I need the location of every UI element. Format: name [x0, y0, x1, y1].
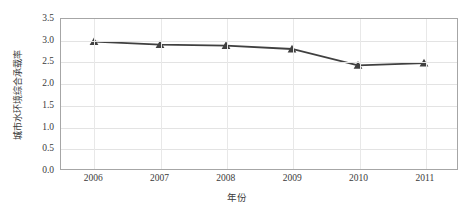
gridline-vertical	[293, 19, 294, 169]
x-axis-tick-label: 2011	[416, 172, 435, 185]
x-axis-tick-label: 2009	[283, 172, 302, 185]
y-axis-tick-label: 2.5	[42, 56, 54, 66]
x-axis-tick-label: 2008	[216, 172, 235, 185]
gridline-horizontal	[61, 128, 457, 129]
plot-area	[60, 18, 458, 170]
gridline-horizontal	[61, 106, 457, 107]
y-axis-tick-label: 2.0	[42, 78, 54, 88]
y-axis-tick-label: 3.5	[42, 13, 54, 23]
x-axis-tick-label: 2006	[84, 172, 103, 185]
gridline-horizontal	[61, 62, 457, 63]
x-axis-tick-label: 2010	[349, 172, 368, 185]
y-axis-tick-label: 0.5	[42, 143, 54, 153]
x-axis-tick-labels: 200620072008200920102011	[60, 172, 458, 188]
gridline-vertical	[161, 19, 162, 169]
gridline-horizontal	[61, 84, 457, 85]
y-axis-title-text: 城市水环境综合承载率	[11, 49, 24, 139]
gridline-horizontal	[61, 149, 457, 150]
x-axis-tick-label: 2007	[150, 172, 169, 185]
y-axis-tick-label: 0.0	[42, 165, 54, 175]
y-axis-tick-labels: 0.00.51.01.52.02.53.03.5	[26, 0, 57, 217]
gridline-vertical	[227, 19, 228, 169]
y-axis-title: 城市水环境综合承载率	[8, 18, 26, 170]
gridline-horizontal	[61, 41, 457, 42]
gridline-vertical	[94, 19, 95, 169]
gridline-vertical	[426, 19, 427, 169]
chart-container: 城市水环境综合承载率 0.00.51.01.52.02.53.03.5 2006…	[0, 0, 474, 217]
x-axis-title: 年份	[0, 190, 474, 204]
y-axis-tick-label: 3.0	[42, 35, 54, 45]
gridline-vertical	[360, 19, 361, 169]
y-axis-tick-label: 1.0	[42, 122, 54, 132]
x-axis-title-text: 年份	[227, 192, 247, 203]
y-axis-tick-label: 1.5	[42, 100, 54, 110]
